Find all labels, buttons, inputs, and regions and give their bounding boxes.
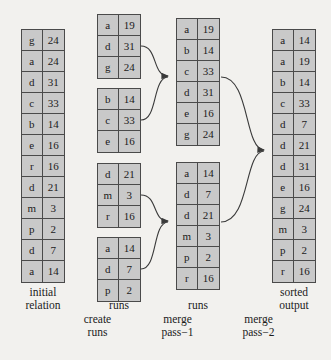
cell-value: 16: [198, 268, 219, 289]
cell-value: 14: [294, 30, 315, 50]
table-row: p2: [177, 247, 219, 268]
cell-key: d: [273, 135, 294, 155]
label-create-line1: create: [55, 313, 140, 326]
arrow-run3-to-merged2: [141, 195, 168, 221]
cell-key: g: [98, 57, 119, 78]
cell-key: a: [98, 238, 119, 258]
label-create-line2: runs: [55, 326, 140, 339]
table-row: r16: [177, 268, 219, 289]
cell-value: 21: [43, 177, 64, 197]
table-row: p2: [98, 280, 140, 301]
label-merge1-line2: pass−1: [135, 326, 220, 339]
cell-key: d: [177, 184, 198, 204]
cell-key: g: [177, 124, 198, 145]
cell-value: 24: [43, 51, 64, 71]
label-merge-pass-1: merge pass−1: [135, 313, 220, 339]
cell-value: 33: [119, 110, 140, 130]
run-2: b14c33e16: [97, 88, 141, 153]
cell-value: 16: [198, 103, 219, 123]
table-row: d21: [22, 177, 64, 198]
label-sorted-output: sorted output: [258, 286, 330, 312]
table-row: d7: [177, 184, 219, 205]
run-4: a14d7p2: [97, 237, 141, 302]
arrow-run1-to-merged1: [141, 46, 168, 76]
cell-value: 33: [43, 93, 64, 113]
label-sorted-line2: output: [258, 299, 330, 312]
cell-key: r: [98, 206, 119, 227]
label-runs-1: runs: [86, 299, 152, 312]
cell-value: 16: [294, 177, 315, 197]
cell-value: 21: [294, 135, 315, 155]
table-row: r16: [273, 261, 315, 282]
label-merge2-line2: pass−2: [216, 326, 301, 339]
cell-key: d: [98, 36, 119, 56]
cell-key: a: [273, 30, 294, 50]
cell-value: 16: [43, 156, 64, 176]
cell-value: 14: [43, 261, 64, 282]
cell-value: 31: [119, 36, 140, 56]
sorted-output-block: a14a19b14c33d7d21d31e16g24m3p2r16: [272, 29, 316, 283]
label-runs-2: runs: [165, 299, 231, 312]
cell-value: 31: [43, 72, 64, 92]
cell-key: m: [98, 185, 119, 205]
cell-key: d: [273, 114, 294, 134]
cell-key: r: [177, 268, 198, 289]
cell-value: 19: [198, 19, 219, 39]
table-row: p2: [22, 219, 64, 240]
cell-value: 31: [294, 156, 315, 176]
table-row: g24: [177, 124, 219, 145]
table-row: m3: [177, 226, 219, 247]
cell-value: 2: [198, 247, 219, 267]
external-merge-sort-diagram: g24a24d31c33b14e16r16d21m3p2d7a14 a19d31…: [0, 0, 331, 360]
cell-value: 7: [198, 184, 219, 204]
cell-key: r: [22, 156, 43, 176]
cell-value: 14: [119, 89, 140, 109]
table-row: a19: [177, 19, 219, 40]
table-row: e16: [177, 103, 219, 124]
cell-value: 24: [119, 57, 140, 78]
cell-value: 33: [294, 93, 315, 113]
table-row: d21: [177, 205, 219, 226]
cell-value: 14: [198, 40, 219, 60]
label-create-runs: create runs: [55, 313, 140, 339]
table-row: a14: [273, 30, 315, 51]
table-row: d21: [273, 135, 315, 156]
cell-key: a: [22, 51, 43, 71]
table-row: e16: [22, 135, 64, 156]
table-row: m3: [98, 185, 140, 206]
cell-key: c: [177, 61, 198, 81]
merged-run-1: a19b14c33d31e16g24: [176, 18, 220, 146]
cell-value: 24: [294, 198, 315, 218]
table-row: c33: [177, 61, 219, 82]
table-row: g24: [22, 30, 64, 51]
label-initial-relation: initial relation: [8, 286, 78, 312]
table-row: b14: [22, 114, 64, 135]
table-row: e16: [273, 177, 315, 198]
cell-key: a: [98, 15, 119, 35]
table-row: c33: [273, 93, 315, 114]
cell-key: c: [22, 93, 43, 113]
cell-value: 16: [119, 206, 140, 227]
cell-key: p: [273, 240, 294, 260]
table-row: m3: [273, 219, 315, 240]
cell-key: g: [273, 198, 294, 218]
cell-value: 3: [119, 185, 140, 205]
cell-key: e: [22, 135, 43, 155]
table-row: a19: [273, 51, 315, 72]
cell-value: 16: [119, 131, 140, 152]
cell-key: a: [22, 261, 43, 282]
cell-value: 2: [43, 219, 64, 239]
arrow-merged1-to-sorted: [221, 77, 264, 150]
cell-key: d: [98, 164, 119, 184]
cell-value: 24: [43, 30, 64, 50]
cell-key: g: [22, 30, 43, 50]
cell-value: 3: [294, 219, 315, 239]
table-row: b14: [273, 72, 315, 93]
table-row: c33: [98, 110, 140, 131]
merged-run-2: a14d7d21m3p2r16: [176, 162, 220, 290]
cell-key: b: [98, 89, 119, 109]
cell-key: b: [22, 114, 43, 134]
table-row: a14: [22, 261, 64, 282]
cell-key: p: [177, 247, 198, 267]
cell-key: a: [177, 19, 198, 39]
